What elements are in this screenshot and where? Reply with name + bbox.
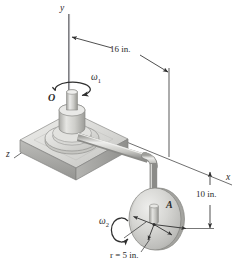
dimension-16in-label: 16 in. bbox=[110, 45, 131, 54]
radius-label: r = 5 in. bbox=[110, 251, 139, 260]
omega1-symbol: ω bbox=[91, 72, 98, 82]
z-axis-label: z bbox=[6, 150, 10, 160]
spindle-shaft bbox=[67, 90, 78, 110]
omega1-subscript: 1 bbox=[98, 77, 101, 84]
y-axis-label: y bbox=[60, 4, 64, 14]
mechanics-diagram: y z x O A ω1 ω2 16 in. 10 in. r = 5 in. bbox=[0, 0, 240, 275]
omega2-subscript: 2 bbox=[106, 221, 109, 228]
dimension-10in bbox=[186, 172, 214, 229]
omega1-label: ω1 bbox=[91, 73, 101, 84]
y-axis bbox=[69, 14, 70, 100]
x-axis-label: x bbox=[226, 173, 230, 183]
omega2-label: ω2 bbox=[99, 217, 109, 228]
point-o-label: O bbox=[48, 93, 55, 103]
omega2-symbol: ω bbox=[99, 216, 106, 226]
diagram-canvas bbox=[0, 0, 240, 275]
dimension-10in-label: 10 in. bbox=[196, 190, 217, 199]
disk-collar bbox=[150, 204, 159, 224]
point-a-label: A bbox=[166, 200, 173, 210]
